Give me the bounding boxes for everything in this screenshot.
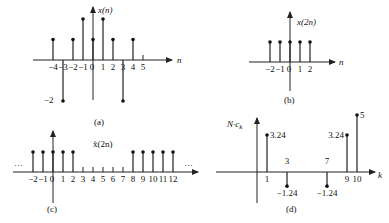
stem-dot — [345, 133, 349, 137]
stem-dot — [71, 38, 75, 42]
panel-b-ticks: −2−1012 — [265, 64, 312, 74]
stem-dot — [161, 150, 165, 154]
tick-label: −2 — [68, 62, 78, 72]
panel-d-value-labels: 3.24−1.24−1.243.245 — [270, 110, 365, 198]
tick-label: 2 — [111, 62, 116, 72]
stem-dot — [268, 40, 272, 44]
value-label: −1.24 — [277, 188, 298, 198]
panel-d-caption: (d) — [286, 204, 297, 214]
stem-dot — [31, 150, 35, 154]
stem-dot — [41, 150, 45, 154]
tick-label: −1 — [38, 174, 48, 184]
tick-label: 5 — [141, 62, 146, 72]
stem-dot — [61, 99, 65, 103]
stem-dot — [171, 150, 175, 154]
tick-label: 11 — [159, 174, 168, 184]
tick-label: −1 — [275, 64, 285, 74]
tick-label: 12 — [169, 174, 178, 184]
tick-label: 1 — [265, 174, 270, 184]
panel-b-caption: (b) — [284, 95, 295, 105]
tick-label: 6 — [111, 174, 116, 184]
tick-label: 4 — [131, 62, 136, 72]
panel-a-ticks: −4−3−2−1012345 — [48, 62, 146, 72]
stem-dot — [131, 150, 135, 154]
tick-label: 1 — [101, 62, 106, 72]
tick-label: 1 — [61, 174, 66, 184]
tick-label: 3 — [81, 174, 86, 184]
tick-label: −2 — [28, 174, 38, 184]
stem-dot — [51, 150, 55, 154]
tick-label: 9 — [345, 174, 350, 184]
stem-dot — [91, 38, 95, 42]
tick-label: 7 — [121, 174, 126, 184]
stem-dot — [71, 150, 75, 154]
tick-label: 8 — [131, 174, 136, 184]
stem-dot — [355, 113, 359, 117]
stem-dot — [51, 38, 55, 42]
ellipsis-left: … — [14, 158, 23, 168]
tick-label: 4 — [91, 174, 96, 184]
panel-b — [249, 12, 335, 91]
tick-label: −3 — [58, 62, 68, 72]
panel-c-ticks: −2−10123456789101112 — [28, 174, 177, 184]
panel-d-ylabel: N·ck — [226, 119, 243, 131]
value-label: −1.24 — [317, 188, 338, 198]
stem-dot — [265, 133, 269, 137]
tick-label: 1 — [298, 64, 303, 74]
tick-label: 3 — [285, 156, 290, 166]
tick-label: 10 — [149, 174, 159, 184]
stem-dot — [151, 150, 155, 154]
tick-label: −1 — [78, 62, 88, 72]
ellipsis-right: … — [184, 158, 193, 168]
panel-a — [33, 7, 172, 103]
panel-b-ylabel: x(2n) — [296, 17, 316, 27]
stem-dot — [298, 40, 302, 44]
panel-c-ylabel: x̃(2n) — [93, 139, 113, 149]
panel-a-ylevel: −2 — [44, 95, 54, 105]
stem-dot — [101, 17, 105, 21]
value-label: 5 — [360, 110, 365, 120]
panel-a-xlabel: n — [177, 55, 182, 65]
stem-dot — [111, 38, 115, 42]
tick-label: 2 — [71, 174, 76, 184]
tick-label: −2 — [265, 64, 275, 74]
tick-label: 10 — [353, 174, 363, 184]
panel-d-xlabel: k — [378, 170, 383, 180]
stem-dot — [131, 38, 135, 42]
stem-dot — [121, 99, 125, 103]
stem-dot — [141, 150, 145, 154]
value-label: 3.24 — [328, 130, 344, 140]
panel-a-ylabel: x(n) — [97, 5, 113, 15]
stem-dot — [81, 17, 85, 21]
tick-label: 2 — [308, 64, 313, 74]
tick-label: 7 — [325, 156, 330, 166]
tick-label: −4 — [48, 62, 58, 72]
stem-dot — [278, 40, 282, 44]
tick-label: 3 — [121, 62, 126, 72]
stem-dot — [61, 150, 65, 154]
tick-label: 0 — [50, 174, 55, 184]
tick-label: 5 — [101, 174, 106, 184]
panel-a-caption: (a) — [94, 117, 104, 127]
figure: x(n) n −2 −4−3−2−1012345 (a) x(2n) n −2−… — [0, 0, 389, 223]
stem-dot — [288, 40, 292, 44]
panel-b-xlabel: n — [339, 57, 344, 67]
tick-label: 0 — [287, 64, 292, 74]
tick-label: 0 — [90, 62, 95, 72]
value-label: 3.24 — [270, 130, 286, 140]
tick-label: 9 — [141, 174, 146, 184]
panel-c-caption: (c) — [47, 204, 57, 214]
stem-dot — [308, 40, 312, 44]
